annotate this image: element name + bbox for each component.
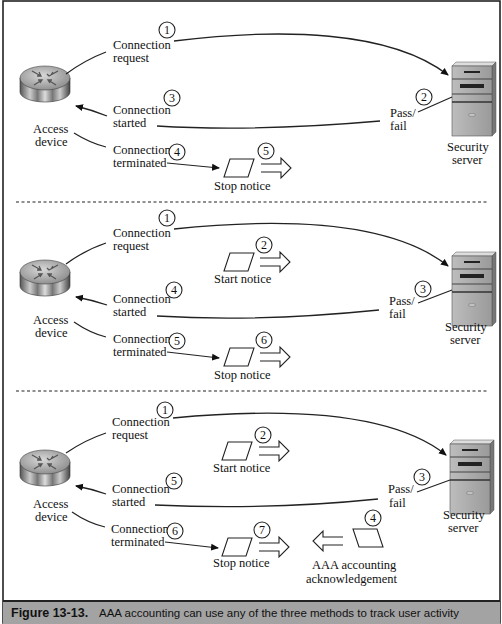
step-number: 6 <box>261 333 267 347</box>
step-number: 5 <box>171 474 177 488</box>
started-label: started <box>113 305 147 319</box>
server-label: Security <box>447 140 489 154</box>
step-number: 6 <box>172 524 178 538</box>
started-label: started <box>113 116 147 130</box>
started-label: Connection <box>113 103 171 117</box>
start-notice-label: Start notice <box>214 272 272 286</box>
started-label: Connection <box>112 482 170 496</box>
server-tower-icon <box>452 62 496 136</box>
started-label: Connection <box>113 292 171 306</box>
server-label: server <box>448 521 479 535</box>
device-label: Access <box>33 497 69 511</box>
terminated-label: terminated <box>113 345 167 359</box>
passfail-label: Pass/ <box>390 106 416 120</box>
stop-notice-label: Stop notice <box>214 368 271 382</box>
started-label: started <box>112 495 146 509</box>
stop-notice-label: Stop notice <box>213 556 270 570</box>
step-number: 5 <box>174 334 180 348</box>
router-icon <box>20 66 70 102</box>
router-icon <box>20 260 70 296</box>
ack-label: acknowledgement <box>306 572 397 586</box>
request-label: request <box>113 51 150 65</box>
terminated-label: Connection <box>111 522 169 536</box>
request-label: request <box>112 428 149 442</box>
step-number: 5 <box>263 144 269 158</box>
request-label: request <box>113 239 150 253</box>
request-label: Connection <box>113 226 171 240</box>
request-label: Connection <box>113 38 171 52</box>
server-label: server <box>450 333 481 347</box>
figure-number: Figure 13-13. <box>11 606 88 620</box>
router-icon <box>20 450 70 486</box>
server-label: server <box>452 153 483 167</box>
passfail-label: Pass/ <box>389 294 415 308</box>
step-number: 2 <box>421 90 427 104</box>
step-number: 1 <box>164 211 170 225</box>
device-label: device <box>35 135 68 149</box>
step-number: 2 <box>261 238 267 252</box>
device-label: Access <box>33 313 69 327</box>
step-number: 2 <box>260 428 266 442</box>
device-label: device <box>35 510 68 524</box>
figure-caption-bar: Figure 13-13. AAA accounting can use any… <box>3 600 500 624</box>
terminated-label: terminated <box>111 535 165 549</box>
step-number: 7 <box>259 523 265 537</box>
step-number: 3 <box>419 470 425 484</box>
step-number: 4 <box>174 145 180 159</box>
passfail-label: fail <box>389 307 406 321</box>
step-number: 3 <box>420 282 426 296</box>
stop-notice-label: Stop notice <box>214 179 271 193</box>
server-label: Security <box>445 320 487 334</box>
passfail-label: fail <box>390 119 407 133</box>
terminated-label: terminated <box>113 156 167 170</box>
terminated-label: Connection <box>113 143 171 157</box>
step-number: 4 <box>171 283 177 297</box>
server-tower-icon <box>450 440 494 514</box>
passfail-label: Pass/ <box>388 482 414 496</box>
step-number: 4 <box>370 511 376 525</box>
start-notice-label: Start notice <box>213 461 271 475</box>
device-label: device <box>35 326 68 340</box>
figure-caption: AAA accounting can use any of the three … <box>99 607 459 619</box>
server-label: Security <box>443 508 485 522</box>
step-number: 1 <box>162 403 168 417</box>
ack-label: AAA accounting <box>312 558 397 572</box>
passfail-label: fail <box>389 496 406 510</box>
step-number: 1 <box>164 23 170 37</box>
terminated-label: Connection <box>113 332 171 346</box>
server-tower-icon <box>452 252 496 326</box>
device-label: Access <box>33 122 69 136</box>
aaa-accounting-diagram: Access device Security server Connection… <box>0 0 502 624</box>
